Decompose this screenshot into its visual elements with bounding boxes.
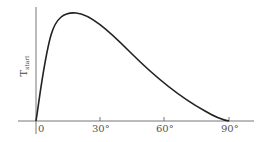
chart: 0 30° 60° 90° Tstart [0,0,268,142]
svg-text:Tstart: Tstart [18,55,30,77]
x-tick-label-30: 30° [92,123,110,134]
y-label-subscript: start [23,55,30,70]
y-axis-label: Tstart [18,55,30,77]
x-tick-label-60: 60° [156,123,174,134]
x-tick-label-0: 0 [38,123,44,134]
x-tick-label-90: 90° [221,123,239,134]
t-start-curve [36,13,229,121]
